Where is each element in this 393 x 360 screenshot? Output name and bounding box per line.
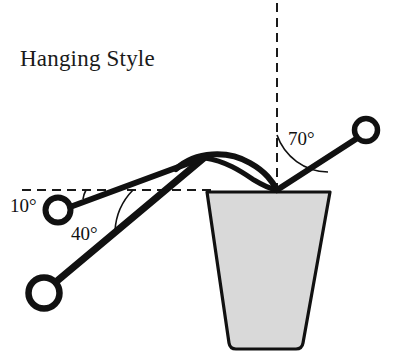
ring-left-upper — [46, 198, 71, 223]
angle-label-10: 10° — [10, 195, 37, 216]
rod-40deg — [57, 157, 205, 281]
angle-arc-10 — [83, 190, 86, 199]
diagram-canvas: Hanging Style 10° 40° 70° — [0, 0, 393, 360]
page-title: Hanging Style — [20, 46, 155, 71]
angle-label-40: 40° — [71, 223, 98, 244]
ring-left-lower — [29, 278, 60, 309]
angle-label-70: 70° — [288, 128, 315, 149]
ring-right — [355, 119, 378, 142]
hanging-style-diagram: Hanging Style 10° 40° 70° — [0, 0, 393, 360]
rod-10deg — [70, 159, 200, 207]
hanging-pot — [207, 192, 330, 349]
